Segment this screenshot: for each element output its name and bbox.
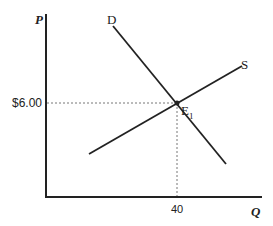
demand-label: D	[107, 13, 116, 26]
equilibrium-label-main: E	[181, 103, 189, 118]
equilibrium-label: E1	[181, 104, 193, 121]
demand-curve	[113, 26, 226, 164]
x-axis-label: Q	[251, 205, 260, 218]
equilibrium-label-sub: 1	[189, 111, 194, 121]
price-tick-label: $6.00	[12, 97, 42, 109]
equilibrium-point	[175, 101, 180, 106]
y-axis-label: P	[35, 13, 43, 26]
supply-demand-chart	[0, 0, 273, 226]
supply-curve	[89, 66, 242, 154]
supply-label: S	[241, 58, 248, 71]
quantity-tick-label: 40	[171, 204, 183, 215]
